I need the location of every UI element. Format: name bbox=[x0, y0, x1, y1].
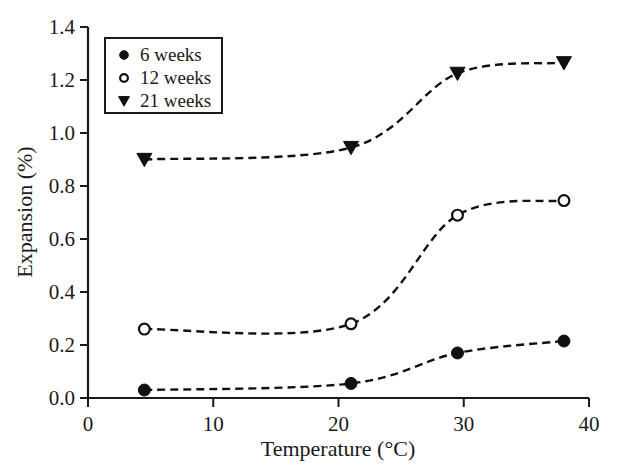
chart-figure: 0.00.20.40.60.81.01.21.4 010203040 Tempe… bbox=[0, 0, 619, 468]
series-6-weeks bbox=[138, 335, 570, 396]
x-tick-label: 0 bbox=[83, 412, 94, 436]
y-axis-title: Expansion (%) bbox=[12, 146, 37, 277]
y-tick-label: 0.2 bbox=[49, 333, 75, 357]
data-point-open-circle bbox=[139, 324, 150, 335]
x-tick-label: 20 bbox=[328, 412, 349, 436]
y-tick-label: 0.8 bbox=[49, 174, 75, 198]
legend: 6 weeks12 weeks21 weeks bbox=[105, 38, 222, 113]
data-point-filled-triangle-down bbox=[450, 67, 465, 80]
y-axis-ticks bbox=[80, 27, 88, 398]
y-tick-label: 1.4 bbox=[49, 15, 76, 39]
data-point-filled-circle bbox=[345, 377, 357, 389]
y-tick-label: 1.0 bbox=[49, 121, 75, 145]
data-point-open-circle bbox=[559, 195, 570, 206]
data-point-filled-circle bbox=[558, 335, 570, 347]
legend-label: 21 weeks bbox=[140, 90, 211, 111]
data-point-filled-circle bbox=[451, 347, 463, 359]
y-tick-label: 1.2 bbox=[49, 68, 75, 92]
series-12-weeks bbox=[139, 195, 569, 334]
data-point-filled-circle bbox=[138, 384, 150, 396]
data-point-open-circle bbox=[452, 210, 463, 221]
legend-label: 6 weeks bbox=[140, 44, 202, 65]
y-axis-tick-labels: 0.00.20.40.60.81.01.21.4 bbox=[49, 15, 76, 410]
legend-marker-filled-circle bbox=[120, 51, 129, 60]
y-tick-label: 0.4 bbox=[49, 280, 76, 304]
y-tick-label: 0.6 bbox=[49, 227, 75, 251]
series-line bbox=[144, 201, 564, 334]
legend-label: 12 weeks bbox=[140, 67, 211, 88]
x-axis-ticks bbox=[88, 398, 589, 407]
x-tick-label: 30 bbox=[453, 412, 474, 436]
data-point-open-circle bbox=[346, 318, 357, 329]
x-tick-label: 40 bbox=[579, 412, 600, 436]
x-axis-title: Temperature (°C) bbox=[261, 436, 415, 461]
legend-marker-open-circle bbox=[120, 74, 128, 82]
data-point-filled-triangle-down bbox=[556, 57, 571, 70]
x-axis-tick-labels: 010203040 bbox=[83, 412, 600, 436]
x-tick-label: 10 bbox=[203, 412, 224, 436]
expansion-vs-temperature-chart: 0.00.20.40.60.81.01.21.4 010203040 Tempe… bbox=[0, 0, 619, 468]
y-tick-label: 0.0 bbox=[49, 386, 75, 410]
